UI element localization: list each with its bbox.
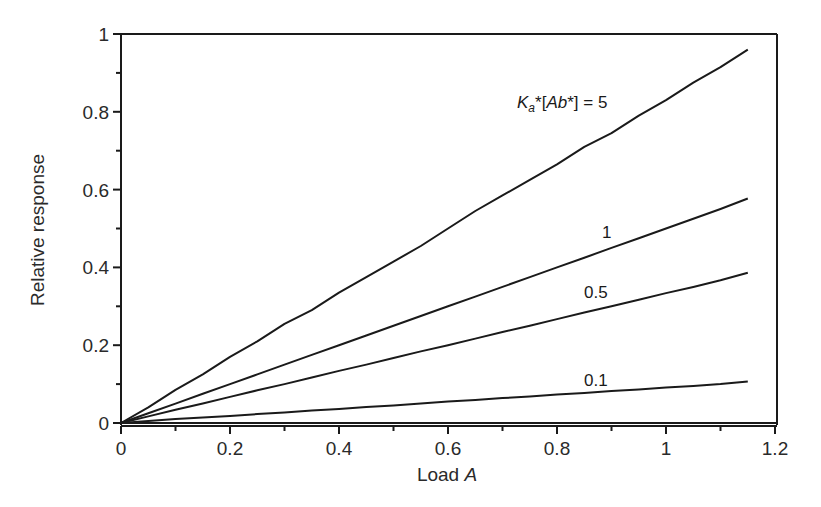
y-axis-title: Relative response xyxy=(27,154,48,306)
x-tick-label: 0 xyxy=(116,438,127,459)
series-line-0.1 xyxy=(121,381,748,423)
x-tick-label: 1 xyxy=(661,438,672,459)
curve-label-0.5: 0.5 xyxy=(584,283,608,302)
data-series xyxy=(121,50,748,423)
curve-label-0.1: 0.1 xyxy=(584,371,608,390)
line-chart: 00.20.40.60.81 00.20.40.60.811.2 Relativ… xyxy=(0,0,821,507)
x-tick-label: 0.8 xyxy=(544,438,570,459)
x-tick-label: 0.6 xyxy=(435,438,461,459)
y-tick-label: 0.2 xyxy=(83,335,109,356)
y-tick-label: 0 xyxy=(98,413,109,434)
y-tick-label: 0.8 xyxy=(83,102,109,123)
x-axis-title: Load A xyxy=(417,464,477,485)
x-tick-label: 1.2 xyxy=(762,438,788,459)
y-tick-label: 0.6 xyxy=(83,180,109,201)
x-tick-label: 0.2 xyxy=(217,438,243,459)
y-tick-label: 1 xyxy=(98,24,109,45)
y-axis-ticks: 00.20.40.60.81 xyxy=(83,24,121,434)
y-tick-label: 0.4 xyxy=(83,257,110,278)
x-axis-ticks: 00.20.40.60.811.2 xyxy=(116,426,789,459)
series-line-0.5 xyxy=(121,273,748,423)
curve-label-5: Ka*[Ab*] = 5 xyxy=(517,93,607,115)
x-tick-label: 0.4 xyxy=(326,438,353,459)
curve-label-1: 1 xyxy=(602,223,611,242)
series-line-Ka-Ab-5 xyxy=(121,50,748,423)
